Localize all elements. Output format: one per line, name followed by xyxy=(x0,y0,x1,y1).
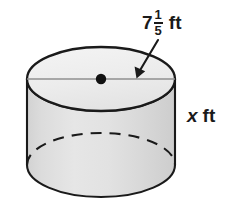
diameter-fraction: 1 5 xyxy=(154,8,163,38)
diameter-whole-number: 7 xyxy=(142,13,153,32)
fraction-denominator: 5 xyxy=(154,24,163,38)
height-unit: ft xyxy=(203,106,216,125)
diameter-label: 7 1 5 ft xyxy=(142,8,181,38)
height-variable: x xyxy=(187,106,198,125)
height-label: x ft xyxy=(187,106,215,125)
center-dot xyxy=(96,74,106,84)
cylinder-figure: 7 1 5 ft x ft xyxy=(0,0,232,221)
fraction-numerator: 1 xyxy=(154,8,163,22)
diameter-unit: ft xyxy=(169,13,182,32)
